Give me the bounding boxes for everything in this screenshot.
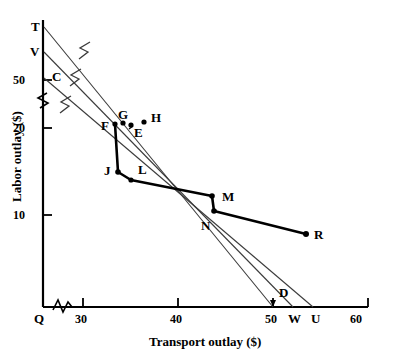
point-label-N: N	[201, 219, 210, 232]
point-marker-N	[211, 208, 217, 214]
point-marker-M	[209, 193, 215, 199]
expansion-path-line	[115, 124, 306, 234]
x-label-W: W	[288, 312, 301, 325]
budget-lines-group	[44, 27, 313, 307]
point-label-L: L	[138, 163, 147, 176]
axes-group	[43, 20, 368, 307]
point-marker-F	[112, 121, 117, 126]
x-label-30: 30	[75, 313, 87, 325]
chart-figure: T V 50 C 20 10 Q 30 40 50 W U 60 F G E H…	[0, 0, 393, 362]
point-label-H: H	[151, 111, 161, 124]
point-marker-R	[303, 231, 309, 237]
budget-line-C-U	[44, 78, 313, 307]
point-marker-J	[115, 169, 121, 175]
point-label-M: M	[222, 190, 234, 203]
point-marker-H	[141, 119, 146, 124]
chart-canvas	[0, 0, 393, 362]
point-label-G: G	[118, 108, 128, 121]
y-label-V: V	[30, 45, 39, 58]
budget-break-icon-1	[79, 42, 90, 59]
x-label-60: 60	[350, 313, 362, 325]
point-label-J: J	[104, 164, 111, 177]
x-axis-title: Transport outlay ($)	[149, 335, 261, 348]
x-label-40: 40	[170, 313, 182, 325]
point-label-D: D	[279, 286, 288, 299]
y-label-50: 50	[13, 74, 25, 86]
x-tick-marks	[83, 298, 368, 307]
point-label-R: R	[314, 228, 323, 241]
x-label-50: 50	[265, 313, 277, 325]
budget-break-icon-2	[70, 69, 81, 86]
budget-line-V-W	[44, 52, 293, 307]
y-axis-title: Labor outlay ($)	[10, 97, 23, 217]
point-label-F: F	[101, 119, 109, 132]
y-tick-marks	[43, 80, 52, 215]
x-label-U: U	[311, 312, 320, 325]
x-label-Q: Q	[34, 312, 44, 325]
point-marker-L	[128, 177, 133, 182]
point-label-E: E	[134, 126, 143, 139]
y-label-C: C	[52, 70, 61, 83]
y-axis-break-icon	[38, 93, 48, 108]
y-label-T: T	[31, 20, 40, 33]
budget-break-icon-3	[60, 96, 71, 113]
budget-line-T-D	[44, 27, 273, 307]
